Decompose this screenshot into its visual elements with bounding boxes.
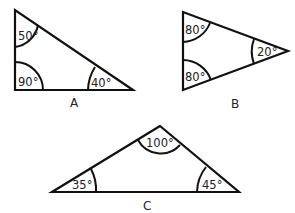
angle-label: 20° [257,45,277,59]
angle-label: 45° [202,178,222,192]
angle-label: 35° [72,178,92,192]
triangle-label: A [70,96,79,110]
triangle-label: C [143,199,151,213]
angle-label: 40° [91,76,111,90]
triangle-label: B [231,97,239,111]
angle-label: 50° [18,29,38,43]
angle-label: 100° [146,136,174,150]
triangle-b: 80° 80° 20° B [183,12,288,111]
triangle-angles-diagram: 50° 90° 40° A 80° 80° 20° B 100° 35° 45°… [0,0,295,213]
angle-label: 80° [185,23,205,37]
triangle-b-arc-right [252,39,254,64]
triangle-c: 100° 35° 45° C [52,126,239,213]
angle-label: 90° [18,75,38,89]
angle-label: 80° [185,70,205,84]
triangle-a: 50° 90° 40° A [15,10,133,110]
